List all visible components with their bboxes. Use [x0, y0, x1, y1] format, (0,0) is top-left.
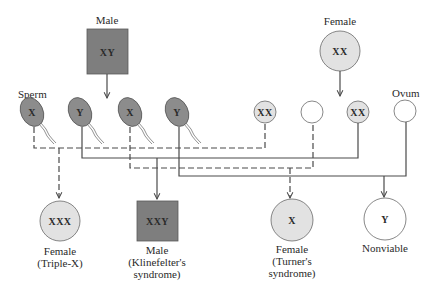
offspring-label-line1: Female — [44, 245, 76, 257]
ovum-chromosome: XX — [257, 107, 273, 118]
ovum-circle-empty — [394, 100, 416, 122]
sperm-3: X — [114, 94, 154, 144]
offspring-xxx: XXX Female (Triple-X) — [37, 201, 83, 270]
sperm-chromosome: Y — [173, 107, 181, 118]
offspring-label-line1: Female — [276, 243, 308, 255]
offspring-x: X Female (Turner's syndrome) — [268, 199, 315, 280]
ovum-2 — [301, 101, 323, 123]
male-genotype: XY — [100, 47, 116, 58]
ovum-label: Ovum — [392, 87, 420, 99]
sex-chromosome-nondisjunction-diagram: Male XY Female XX Sperm Ovum X Y X Y — [0, 0, 445, 291]
sperm-2: Y — [64, 94, 104, 144]
sperm-tail-icon — [87, 124, 102, 144]
female-parent: Female XX — [320, 15, 360, 96]
offspring-label-line1: Nonviable — [362, 242, 408, 254]
offspring-genotype: X — [288, 215, 296, 226]
female-parent-label: Female — [324, 15, 356, 27]
sperm-tail-icon — [184, 124, 199, 144]
ovum-3: XX — [347, 101, 369, 123]
ovum-1: XX — [254, 101, 276, 123]
ovum-circle-empty — [301, 101, 323, 123]
sperm-1: X — [16, 94, 56, 144]
sperm-tail-icon — [137, 124, 152, 144]
offspring-label-line3: syndrome) — [268, 267, 315, 280]
offspring-y: Y Nonviable — [362, 198, 408, 254]
sperm-chromosome: Y — [76, 107, 84, 118]
ovum-4 — [394, 100, 416, 122]
sperm-tail-icon — [39, 124, 54, 144]
male-parent: Male XY — [87, 14, 128, 98]
offspring-xxy: XXY Male (Klinefelter's syndrome) — [128, 201, 186, 281]
male-parent-label: Male — [96, 14, 119, 26]
offspring-genotype: Y — [381, 214, 389, 225]
edge-xxx — [34, 123, 265, 198]
offspring-genotype: XXY — [146, 216, 169, 227]
edge-xxy — [82, 123, 358, 199]
offspring-label-line2: (Triple-X) — [37, 257, 83, 270]
offspring-label-line1: Male — [146, 244, 169, 256]
sperm-4: Y — [161, 94, 201, 144]
ovum-chromosome: XX — [350, 107, 366, 118]
female-genotype: XX — [332, 46, 348, 57]
offspring-label-line3: syndrome) — [133, 268, 180, 281]
dashed-connector — [34, 123, 265, 148]
offspring-genotype: XXX — [48, 216, 71, 227]
edge-y — [179, 122, 406, 197]
solid-connector — [82, 123, 358, 158]
sperm-chromosome: X — [28, 107, 36, 118]
sperm-chromosome: X — [126, 107, 134, 118]
